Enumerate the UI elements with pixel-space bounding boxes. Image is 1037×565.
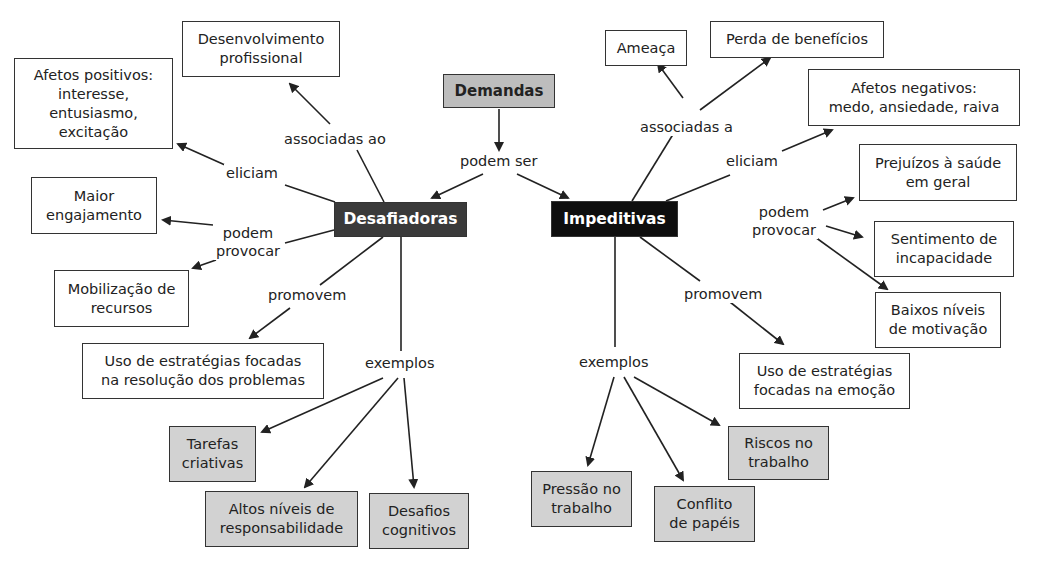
example-desafios-cognitivos: Desafios cognitivos xyxy=(369,493,469,549)
node-demandas: Demandas xyxy=(443,74,555,108)
node-prejuizos-saude: Prejuízos à saúde em geral xyxy=(859,144,1017,201)
link-exemplos-left: exemplos xyxy=(363,354,437,372)
node-maior-engajamento: Maior engajamento xyxy=(31,177,157,234)
node-perda-beneficios: Perda de benefícios xyxy=(710,21,884,58)
node-sentimento-incapacidade: Sentimento de incapacidade xyxy=(874,221,1014,277)
node-ameaca: Ameaça xyxy=(605,30,687,66)
link-eliciam-left: eliciam xyxy=(224,164,280,182)
link-exemplos-right: exemplos xyxy=(577,353,651,371)
link-podem-provocar-left: podem provocar xyxy=(214,224,282,260)
node-baixos-niveis: Baixos níveis de motivação xyxy=(875,292,1001,348)
link-associadas-a: associadas a xyxy=(638,118,735,136)
link-associadas-ao: associadas ao xyxy=(282,130,388,148)
example-riscos-trabalho: Riscos no trabalho xyxy=(728,426,829,480)
example-altos-niveis: Altos níveis de responsabilidade xyxy=(205,491,358,547)
node-mobilizacao-recursos: Mobilização de recursos xyxy=(54,270,189,327)
example-conflito-papeis: Conflito de papéis xyxy=(654,486,755,542)
example-tarefas-criativas: Tarefas criativas xyxy=(169,426,256,482)
link-podem-provocar-right: podem provocar xyxy=(750,203,818,239)
link-promovem-left: promovem xyxy=(266,286,348,304)
example-pressao-trabalho: Pressão no trabalho xyxy=(531,471,632,527)
link-promovem-right: promovem xyxy=(682,285,764,303)
node-impeditivas: Impeditivas xyxy=(551,201,678,237)
node-afetos-positivos: Afetos positivos: interesse, entusiasmo,… xyxy=(14,58,173,149)
link-podem-ser: podem ser xyxy=(458,152,539,170)
node-afetos-negativos: Afetos negativos: medo, ansiedade, raiva xyxy=(808,69,1020,126)
node-desenvolvimento-profissional: Desenvolvimento profissional xyxy=(182,21,340,77)
node-estrategias-problemas: Uso de estratégias focadas na resolução … xyxy=(82,343,324,399)
node-estrategias-emocao: Uso de estratégias focadas na emoção xyxy=(739,353,910,409)
node-desafiadoras: Desafiadoras xyxy=(334,202,467,237)
link-eliciam-right: eliciam xyxy=(724,152,780,170)
